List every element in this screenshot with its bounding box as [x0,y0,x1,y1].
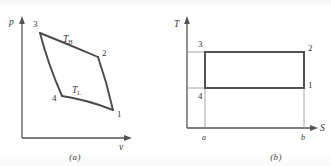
pv-process-4-3-isentrope [40,33,62,96]
pv-diagram-svg: p v 3 2 1 4 TH TL [0,0,166,166]
ts-state-point-3-label: 3 [198,39,203,49]
ts-diagram-svg: T S 3 2 1 4 a b [165,0,331,166]
pv-state-point-2-label: 2 [102,48,107,58]
pv-state-point-3-label: 3 [33,19,38,29]
ts-diagram-panel: T S 3 2 1 4 a b (b) [165,0,331,166]
pv-label-T-low-subscript: L [77,89,81,96]
ts-state-point-2-label: 2 [308,43,313,53]
pv-x-axis-label: v [119,142,124,152]
pv-y-axis-label: p [8,17,14,27]
ts-cycle-rectangle [205,52,304,88]
pv-y-axis-arrowhead [19,16,25,24]
pv-state-point-1-label: 1 [117,109,122,119]
pv-label-T-high-subscript: H [68,38,73,45]
pv-diagram-panel: p v 3 2 1 4 TH TL (a) [0,0,166,166]
pv-label-T-high: TH [63,34,73,45]
ts-x-axis-arrowhead [310,125,318,131]
ts-diagram-caption: (b) [193,152,331,162]
ts-y-axis-label: T [174,19,180,29]
ts-x-tick-label-b: b [301,133,305,142]
ts-y-axis-arrowhead [184,16,190,24]
pv-label-T-low: TL [72,85,81,96]
pv-process-1-4-isotherm-low [62,96,113,110]
ts-state-point-1-label: 1 [308,80,313,90]
pv-process-2-1-isentrope [98,57,113,110]
pv-diagram-caption: (a) [0,152,158,162]
pv-x-axis-arrowhead [124,135,132,141]
pv-state-point-4-label: 4 [52,93,57,103]
ts-x-axis-label: S [320,123,325,133]
ts-x-tick-label-a: a [202,133,206,142]
ts-state-point-4-label: 4 [198,91,203,101]
figure-root: p v 3 2 1 4 TH TL (a) T [0,0,331,166]
